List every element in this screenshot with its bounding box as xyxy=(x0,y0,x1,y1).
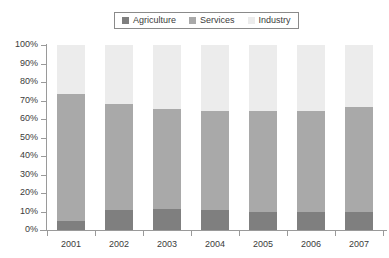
bar-segment-agriculture xyxy=(201,210,229,230)
y-axis-tick-label: 60% xyxy=(4,114,38,123)
legend-label-services: Services xyxy=(200,16,235,25)
x-axis-tick-label: 2001 xyxy=(48,240,94,249)
bar-segment-services xyxy=(345,107,373,212)
bar-stack-2002 xyxy=(105,45,133,230)
bar-segment-services xyxy=(249,111,277,213)
legend-swatch-services xyxy=(189,17,196,24)
y-axis-tick-label: 90% xyxy=(4,59,38,68)
y-axis-tick-label: 20% xyxy=(4,188,38,197)
bar-stack-2003 xyxy=(153,45,181,230)
bar-segment-industry xyxy=(153,45,181,109)
x-axis-tick xyxy=(191,231,192,236)
bar-segment-industry xyxy=(297,45,325,111)
x-axis-tick-label: 2006 xyxy=(288,240,334,249)
y-axis-tick-label: 40% xyxy=(4,151,38,160)
y-axis-tick-label: 100% xyxy=(4,40,38,49)
bar-segment-agriculture xyxy=(57,221,85,230)
y-axis-tick-label: 30% xyxy=(4,170,38,179)
y-axis-tick-label: 70% xyxy=(4,96,38,105)
stacked-bar-chart: Agriculture Services Industry 100%90%80%… xyxy=(0,0,389,258)
bar-segment-services xyxy=(201,111,229,210)
legend-label-industry: Industry xyxy=(259,16,291,25)
chart-legend: Agriculture Services Industry xyxy=(114,12,299,29)
bar-segment-agriculture xyxy=(153,209,181,230)
x-axis-tick-label: 2004 xyxy=(192,240,238,249)
y-axis-labels: 100%90%80%70%60%50%40%30%20%10%0% xyxy=(0,0,38,258)
y-axis-tick-label: 10% xyxy=(4,207,38,216)
x-axis-tick-label: 2003 xyxy=(144,240,190,249)
y-axis-tick-label: 80% xyxy=(4,77,38,86)
bar-stack-2005 xyxy=(249,45,277,230)
bar-stack-2007 xyxy=(345,45,373,230)
x-axis-tick-label: 2002 xyxy=(96,240,142,249)
plot-area xyxy=(47,45,383,230)
bar-segment-industry xyxy=(105,45,133,104)
x-axis-tick xyxy=(95,231,96,236)
x-axis-tick xyxy=(287,231,288,236)
bar-segment-agriculture xyxy=(345,212,373,230)
x-axis-tick-label: 2007 xyxy=(336,240,382,249)
legend-swatch-agriculture xyxy=(122,17,129,24)
bar-stack-2006 xyxy=(297,45,325,230)
legend-swatch-industry xyxy=(248,17,255,24)
bar-segment-industry xyxy=(201,45,229,111)
legend-item-services: Services xyxy=(189,16,235,25)
legend-item-agriculture: Agriculture xyxy=(122,16,176,25)
x-axis-tick xyxy=(383,231,384,236)
x-axis-tick xyxy=(335,231,336,236)
bar-segment-services xyxy=(105,104,133,209)
bar-segment-agriculture xyxy=(249,212,277,230)
bar-segment-agriculture xyxy=(297,212,325,230)
legend-item-industry: Industry xyxy=(248,16,291,25)
bar-stack-2004 xyxy=(201,45,229,230)
bar-stack-2001 xyxy=(57,45,85,230)
x-axis-tick xyxy=(47,231,48,236)
y-axis-tick-label: 50% xyxy=(4,133,38,142)
bar-segment-services xyxy=(57,94,85,221)
y-axis-tick-label: 0% xyxy=(4,225,38,234)
legend-label-agriculture: Agriculture xyxy=(133,16,176,25)
x-axis-tick xyxy=(143,231,144,236)
bar-segment-industry xyxy=(57,45,85,94)
bar-segment-industry xyxy=(249,45,277,111)
bar-segment-services xyxy=(297,111,325,213)
bar-segment-industry xyxy=(345,45,373,107)
x-axis-tick-label: 2005 xyxy=(240,240,286,249)
x-axis-tick xyxy=(239,231,240,236)
bar-segment-services xyxy=(153,109,181,209)
bar-segment-agriculture xyxy=(105,210,133,230)
